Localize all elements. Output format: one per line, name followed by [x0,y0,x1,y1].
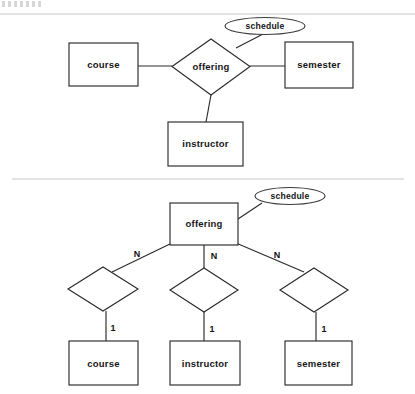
cardinality-n-instructor-branch: N [211,251,218,261]
cardinality-n-course-branch: N [134,249,141,259]
connector-offering-course-diamond [112,243,172,272]
cardinality-n-semester-branch: N [274,250,281,260]
entity-label-instructor-top: instructor [182,138,228,149]
relationship-diamond-course-branch[interactable] [68,267,138,311]
entity-label-course-bottom: course [87,358,119,369]
entity-label-course-top: course [87,59,119,70]
cardinality-one-course-branch: 1 [110,323,115,333]
er-diagram-canvas: course semester instructor offering sche… [0,0,415,394]
cardinality-one-instructor-branch: 1 [209,324,214,334]
relationship-diamond-semester-branch[interactable] [280,268,348,312]
entity-label-offering-bottom: offering [186,218,223,229]
connector-offering-schedule [236,33,265,48]
connector-offering-schedule-bottom [238,203,262,219]
entity-label-instructor-bottom: instructor [182,358,228,369]
connector-offering-instructor [206,95,211,122]
relationship-diamond-instructor-branch[interactable] [170,268,238,312]
cardinality-one-semester-branch: 1 [321,324,326,334]
entity-label-semester-bottom: semester [297,358,340,369]
connector-offering-semester-diamond [236,243,304,272]
entity-label-semester-top: semester [297,59,340,70]
attribute-label-schedule-bottom: schedule [271,191,310,201]
attribute-label-schedule-top: schedule [246,21,285,31]
er-diagram-svg: course semester instructor offering sche… [0,0,415,394]
relationship-label-offering-top: offering [193,61,230,72]
